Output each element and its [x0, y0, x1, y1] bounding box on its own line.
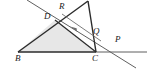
geometry-figure: R D Q P B C — [0, 0, 152, 74]
geometry-canvas — [0, 0, 152, 74]
point-label-p: P — [115, 35, 121, 44]
point-label-b: B — [15, 54, 21, 63]
point-label-q: Q — [93, 27, 100, 36]
point-label-r: R — [59, 2, 65, 11]
point-label-c: C — [92, 54, 98, 63]
point-label-d: D — [44, 12, 51, 21]
